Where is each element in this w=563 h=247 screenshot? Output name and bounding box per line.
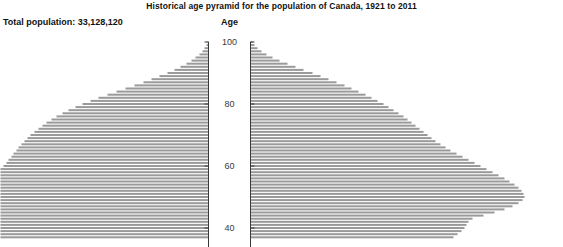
age-tick-label: 80 bbox=[224, 99, 234, 109]
age-tick-label: 100 bbox=[222, 37, 237, 47]
pyramid-bar-left bbox=[1, 218, 209, 220]
pyramid-bar-left bbox=[1, 208, 209, 210]
pyramid-bar-right bbox=[251, 199, 523, 201]
pyramid-bar-right bbox=[251, 106, 389, 108]
pyramid-bar-right bbox=[251, 181, 510, 183]
pyramid-bar-right bbox=[251, 44, 255, 46]
pyramid-bar-right bbox=[251, 212, 495, 214]
pyramid-bar-left bbox=[83, 103, 209, 105]
pyramid-bar-left bbox=[1, 181, 209, 183]
age-tick-label: 60 bbox=[224, 161, 234, 171]
pyramid-bar-left bbox=[28, 137, 209, 139]
pyramid-bar-right bbox=[251, 57, 273, 59]
pyramid-bar-right bbox=[251, 162, 475, 164]
pyramid-bar-left bbox=[7, 162, 209, 164]
pyramid-bar-right bbox=[251, 193, 524, 195]
pyramid-bar-right bbox=[251, 218, 473, 220]
pyramid-bar-left bbox=[14, 153, 209, 155]
pyramid-bar-left bbox=[1, 184, 209, 186]
pyramid-bar-left bbox=[25, 140, 209, 142]
pyramid-bar-left bbox=[187, 63, 209, 65]
pyramid-bar-right bbox=[251, 78, 329, 80]
pyramid-bar-left bbox=[175, 69, 209, 71]
pyramid-bar-left bbox=[160, 75, 209, 77]
pyramid-bar-right bbox=[251, 125, 416, 127]
pyramid-bar-left bbox=[1, 171, 209, 173]
pyramid-bar-right bbox=[251, 177, 505, 179]
pyramid-bar-right bbox=[251, 66, 296, 68]
pyramid-bar-left bbox=[1, 193, 209, 195]
pyramid-bar-right bbox=[251, 236, 454, 238]
pyramid-bar-right bbox=[251, 143, 441, 145]
pyramid-bar-right bbox=[251, 50, 262, 52]
population-pyramid-chart: Historical age pyramid for the populatio… bbox=[0, 0, 563, 247]
pyramid-bar-right bbox=[251, 137, 432, 139]
pyramid-bar-left bbox=[1, 233, 209, 235]
pyramid-bar-right bbox=[251, 128, 420, 130]
pyramid-bar-right bbox=[251, 109, 394, 111]
pyramid-bar-right bbox=[251, 165, 481, 167]
pyramid-bar-left bbox=[1, 205, 209, 207]
pyramid-bar-left bbox=[196, 57, 209, 59]
pyramid-bar-left bbox=[1, 236, 209, 238]
pyramid-bar-left bbox=[31, 134, 209, 136]
pyramid-bar-left bbox=[43, 125, 209, 127]
pyramid-bar-left bbox=[35, 131, 209, 133]
pyramid-bar-left bbox=[203, 50, 209, 52]
pyramid-bar-left bbox=[192, 60, 209, 62]
pyramid-bar-left bbox=[76, 106, 209, 108]
pyramid-bar-right bbox=[251, 171, 493, 173]
pyramid-bar-left bbox=[47, 122, 209, 124]
pyramid-bar-right bbox=[251, 94, 366, 96]
pyramid-bar-right bbox=[251, 72, 313, 74]
pyramid-bar-right bbox=[251, 81, 337, 83]
pyramid-bar-left bbox=[17, 150, 209, 152]
pyramid-bar-right bbox=[251, 47, 258, 49]
pyramid-bar-left bbox=[22, 143, 209, 145]
pyramid-bar-left bbox=[117, 91, 209, 93]
pyramid-bar-right bbox=[251, 146, 446, 148]
pyramid-bar-right bbox=[251, 208, 505, 210]
pyramid-bar-left bbox=[1, 224, 209, 226]
pyramid-bar-left bbox=[19, 146, 209, 148]
plot-area: 406080100 bbox=[0, 0, 563, 247]
pyramid-bar-right bbox=[251, 196, 525, 198]
pyramid-bar-left bbox=[9, 159, 209, 161]
pyramid-bar-right bbox=[251, 63, 288, 65]
pyramid-bar-right bbox=[251, 230, 462, 232]
pyramid-bar-right bbox=[251, 100, 378, 102]
pyramid-bar-right bbox=[251, 205, 513, 207]
pyramid-bar-right bbox=[251, 134, 428, 136]
pyramid-bar-left bbox=[91, 100, 209, 102]
pyramid-bar-right bbox=[251, 140, 436, 142]
pyramid-bar-left bbox=[63, 112, 209, 114]
pyramid-bar-right bbox=[251, 156, 463, 158]
pyramid-bar-right bbox=[251, 190, 522, 192]
pyramid-bar-left bbox=[108, 94, 209, 96]
pyramid-bar-left bbox=[1, 202, 209, 204]
pyramid-bar-left bbox=[152, 78, 209, 80]
pyramid-bar-right bbox=[251, 91, 359, 93]
pyramid-bar-left bbox=[12, 156, 209, 158]
pyramid-bar-right bbox=[251, 53, 267, 55]
left-bars-group bbox=[1, 41, 209, 238]
pyramid-bar-right bbox=[251, 202, 519, 204]
pyramid-bar-right bbox=[251, 122, 412, 124]
pyramid-bar-left bbox=[1, 177, 209, 179]
pyramid-bar-left bbox=[1, 196, 209, 198]
pyramid-bar-right bbox=[251, 115, 404, 117]
pyramid-bar-right bbox=[251, 103, 384, 105]
pyramid-bar-left bbox=[1, 221, 209, 223]
pyramid-bar-left bbox=[1, 174, 209, 176]
pyramid-bar-right bbox=[251, 153, 457, 155]
pyramid-bar-left bbox=[168, 72, 209, 74]
pyramid-bar-right bbox=[251, 224, 467, 226]
pyramid-bar-right bbox=[251, 131, 424, 133]
pyramid-bar-left bbox=[1, 230, 209, 232]
age-tick-label: 40 bbox=[224, 223, 234, 233]
pyramid-bar-left bbox=[4, 165, 209, 167]
pyramid-bar-left bbox=[126, 88, 209, 90]
pyramid-svg: 406080100 bbox=[0, 0, 563, 247]
pyramid-bar-right bbox=[251, 150, 451, 152]
pyramid-bar-left bbox=[39, 128, 209, 130]
